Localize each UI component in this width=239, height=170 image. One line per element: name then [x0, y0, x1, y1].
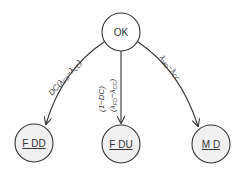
- node-fdu: F DU: [102, 125, 140, 163]
- node-fdu-label: F DU: [109, 139, 132, 150]
- edge-label-fdu-line2: (λFD−λCC): [108, 78, 118, 112]
- node-ok: OK: [102, 13, 140, 51]
- state-diagram: DC(λFD−λCC) (1−DC) (λFD−λCC) λMD−λCC OK …: [0, 0, 239, 170]
- edge-label-fdu-line1: (1−DC): [97, 86, 106, 112]
- edge-label-fdd: DC(λFD−λCC): [47, 58, 84, 98]
- node-ok-label: OK: [114, 27, 129, 38]
- edge-ok-to-md: [138, 42, 198, 126]
- node-md: M D: [192, 125, 230, 163]
- edge-label-md: λMD−λCC: [156, 53, 183, 82]
- node-fdd-label: F DD: [22, 138, 45, 149]
- node-md-label: M D: [202, 139, 220, 150]
- node-fdd: F DD: [15, 124, 53, 162]
